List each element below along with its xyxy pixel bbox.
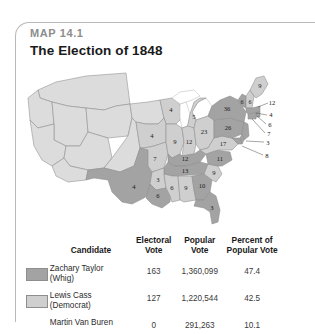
map-number: MAP 14.1 <box>30 27 84 39</box>
header-electoral-vote: Electoral Vote <box>132 236 175 261</box>
legend-swatch-cass <box>26 288 50 315</box>
popular-vote-van-buren: 291,263 <box>175 315 224 334</box>
candidate-party-line: (Democrat) <box>50 301 91 310</box>
ev-pennsylvania: 26 <box>225 124 232 131</box>
header-percent: Percent of Popular Vote <box>224 236 280 261</box>
header-percent-line2: Popular Vote <box>227 245 278 255</box>
page-title: The Election of 1848 <box>30 43 163 58</box>
popular-vote-cass: 1,220,544 <box>175 288 224 315</box>
ev-tennessee: 13 <box>182 167 189 174</box>
header-candidate: Candidate <box>50 236 132 261</box>
header-popular-vote-line1: Popular <box>184 235 215 245</box>
results-table: Candidate Electoral Vote Popular Vote Pe… <box>26 236 280 334</box>
ev-indiana: 12 <box>186 138 193 145</box>
ev-kentucky: 12 <box>182 155 189 162</box>
electoral-vote-cass: 127 <box>132 288 175 315</box>
ev-vermont: 6 <box>241 99 244 105</box>
legend-swatch-van-buren <box>26 315 50 334</box>
ev-north-carolina: 11 <box>217 155 223 162</box>
candidate-name-taylor: Zachary Taylor (Whig) <box>50 261 132 288</box>
callout-new-jersey: 7 <box>267 130 271 137</box>
percent-van-buren: 10.1 <box>224 315 280 334</box>
electoral-vote-taylor: 163 <box>132 261 175 288</box>
ev-ohio: 23 <box>201 128 208 135</box>
ev-new-hampshire: 6 <box>249 99 252 105</box>
election-map: 4 4 4 5 7 9 12 23 12 13 3 6 6 9 10 3 9 1… <box>8 62 278 234</box>
header-popular-vote-line2: Vote <box>191 245 209 255</box>
table-header-row: Candidate Electoral Vote Popular Vote Pe… <box>26 236 280 261</box>
candidate-name-cass: Lewis Cass (Democrat) <box>50 288 132 315</box>
table-row: Zachary Taylor (Whig) 163 1,360,099 47.4 <box>26 261 280 288</box>
electoral-vote-van-buren: 0 <box>132 315 175 334</box>
candidate-name-line1: Zachary Taylor <box>50 264 104 273</box>
popular-vote-taylor: 1,360,099 <box>175 261 224 288</box>
ev-virginia: 17 <box>220 140 227 147</box>
state-connecticut <box>248 113 256 119</box>
callout-delaware: 3 <box>266 139 270 146</box>
callout-massachusetts: 12 <box>269 99 276 106</box>
header-electoral-vote-line2: Vote <box>145 245 163 255</box>
candidate-name-line1: Martin Van Buren <box>50 318 113 327</box>
header-electoral-vote-line1: Electoral <box>136 235 171 245</box>
ev-georgia: 10 <box>199 182 206 189</box>
candidate-name-line1: Lewis Cass <box>50 291 92 300</box>
callout-maryland: 8 <box>265 152 269 159</box>
territory-minnesota <box>130 100 164 124</box>
candidate-party-line: (Whig) <box>50 274 74 283</box>
callout-rhode-island: 4 <box>269 111 273 118</box>
state-rhode-island <box>256 112 260 117</box>
table-row: Lewis Cass (Democrat) 127 1,220,544 42.5 <box>26 288 280 315</box>
callout-connecticut: 6 <box>268 121 272 128</box>
legend-swatch-taylor <box>26 261 50 288</box>
candidate-name-van-buren: Martin Van Buren <box>50 315 132 334</box>
header-popular-vote: Popular Vote <box>175 236 224 261</box>
percent-cass: 42.5 <box>224 288 280 315</box>
table-row: Martin Van Buren 0 291,263 10.1 <box>26 315 280 334</box>
ev-new-york: 36 <box>224 105 231 112</box>
header-swatch <box>26 236 50 261</box>
western-territories <box>28 73 140 182</box>
header-percent-line1: Percent of <box>232 235 273 245</box>
callout-labels: 12 4 6 7 3 8 <box>265 99 275 159</box>
percent-taylor: 47.4 <box>224 261 280 288</box>
